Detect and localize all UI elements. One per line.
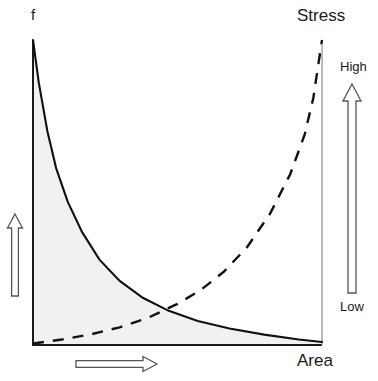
area-under-curve-fill: [33, 40, 322, 345]
x-axis-label: Area: [297, 352, 333, 369]
y-axis-direction-arrow: [8, 214, 23, 296]
stress-scale-high-label: High: [340, 60, 367, 73]
secondary-axis-label: Stress: [297, 7, 345, 24]
plot-canvas: [0, 0, 378, 381]
y-axis-label: f: [31, 7, 35, 22]
stress-area-figure: f Stress Area High Low: [0, 0, 378, 381]
stress-scale-low-label: Low: [340, 300, 364, 313]
stress-scale-arrow: [343, 84, 361, 293]
x-axis-direction-arrow: [76, 357, 157, 372]
